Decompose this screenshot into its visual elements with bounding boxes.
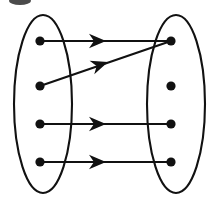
right-set-dots — [166, 36, 175, 166]
mapping-diagram — [0, 0, 210, 197]
left-set-dots — [35, 36, 44, 166]
right-dot-2 — [166, 81, 175, 90]
left-dot-1 — [35, 36, 44, 45]
mapping-diagram-canvas — [0, 0, 210, 197]
left-dot-4 — [35, 157, 44, 166]
top-left-smudge-artifact — [9, 0, 31, 5]
left-dot-3 — [35, 119, 44, 128]
right-dot-3 — [166, 119, 175, 128]
arrow-head-2 — [90, 55, 111, 74]
left-dot-2 — [35, 81, 44, 90]
right-dot-1 — [166, 36, 175, 45]
right-dot-4 — [166, 157, 175, 166]
